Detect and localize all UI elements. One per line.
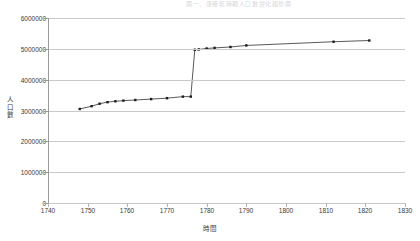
series-point bbox=[190, 95, 192, 97]
series-point bbox=[182, 95, 184, 97]
series-point bbox=[368, 39, 370, 41]
x-axis-tick-label: 1830 bbox=[385, 207, 420, 215]
gridline-y bbox=[48, 49, 405, 50]
y-axis-tick bbox=[44, 141, 49, 142]
gridline-y bbox=[48, 141, 405, 142]
x-axis-tick-label: 1770 bbox=[147, 207, 187, 215]
series-line bbox=[80, 41, 370, 109]
series-point bbox=[90, 105, 92, 107]
series-point bbox=[79, 108, 81, 110]
gridline-y bbox=[48, 111, 405, 112]
gridline-y bbox=[48, 80, 405, 81]
series-point bbox=[229, 46, 231, 48]
series-point bbox=[98, 103, 100, 105]
gridline-y bbox=[48, 203, 405, 204]
population-chart: 圖一、康雍乾時期人口數變化趨勢圖 01000000200000030000004… bbox=[0, 0, 420, 241]
x-axis-tick-label: 1810 bbox=[306, 207, 346, 215]
x-axis-tick-label: 1760 bbox=[107, 207, 147, 215]
x-axis-tick-label: 1750 bbox=[68, 207, 108, 215]
x-axis-tick-label: 1800 bbox=[266, 207, 306, 215]
x-axis-tick-label: 1790 bbox=[226, 207, 266, 215]
series-point bbox=[166, 97, 168, 99]
series-point bbox=[122, 99, 124, 101]
x-axis-tick-label: 1820 bbox=[345, 207, 385, 215]
series-point bbox=[332, 41, 334, 43]
series-point bbox=[134, 99, 136, 101]
y-axis-tick bbox=[44, 49, 49, 50]
y-axis-tick bbox=[44, 111, 49, 112]
series-point bbox=[106, 101, 108, 103]
series-point bbox=[245, 44, 247, 46]
gridline-y bbox=[48, 18, 405, 19]
series-point bbox=[150, 98, 152, 100]
series-point bbox=[114, 100, 116, 102]
series-layer bbox=[0, 0, 420, 241]
y-axis-tick bbox=[44, 18, 49, 19]
gridline-y bbox=[48, 172, 405, 173]
y-axis-tick bbox=[44, 80, 49, 81]
y-axis-tick bbox=[44, 172, 49, 173]
x-axis-tick-label: 1780 bbox=[187, 207, 227, 215]
x-axis-tick-label: 1740 bbox=[28, 207, 68, 215]
